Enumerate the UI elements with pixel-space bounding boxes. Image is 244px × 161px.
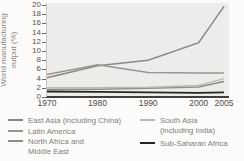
- legend-item-east-asia: East Asia (including China): [8, 116, 121, 126]
- legend-label-east-asia: East Asia (including China): [28, 116, 121, 126]
- y-tick-label: 12: [26, 38, 41, 46]
- x-tick-label: 2005: [209, 99, 239, 108]
- y-axis-title-line2: output (%): [9, 2, 19, 98]
- sub-saharan-africa-line-swatch: [140, 142, 155, 144]
- y-tick-label: 20: [26, 1, 41, 9]
- y-tick-label: 18: [26, 10, 41, 18]
- x-tick-label: 1970: [32, 99, 62, 108]
- y-tick-mark: [42, 60, 46, 61]
- legend-item-sub-saharan-africa: Sub-Saharan Africa: [140, 139, 228, 149]
- y-tick-mark: [42, 51, 46, 52]
- y-axis-title-line1: World manufacturing: [0, 2, 9, 98]
- latin-america-line-swatch: [8, 130, 23, 132]
- legend-label-south-asia: South Asia (including India): [160, 116, 215, 135]
- plot-area: [46, 3, 229, 98]
- y-tick-label: 8: [26, 56, 41, 64]
- y-tick-label: 16: [26, 19, 41, 27]
- legend-item-latin-america: Latin America: [8, 127, 75, 137]
- y-tick-mark: [42, 14, 46, 15]
- y-tick-mark: [42, 88, 46, 89]
- y-tick-mark: [42, 23, 46, 24]
- legend-label-latin-america: Latin America: [28, 127, 75, 137]
- legend-item-south-asia: South Asia (including India): [140, 116, 215, 135]
- south-asia-line-swatch: [140, 119, 155, 121]
- legend-label-north-africa-middle-east: North Africa and Middle East: [28, 137, 84, 156]
- y-tick-label: 14: [26, 29, 41, 37]
- legend-item-north-africa-middle-east: North Africa and Middle East: [8, 137, 84, 156]
- y-tick-mark: [42, 5, 46, 6]
- y-tick-mark: [42, 42, 46, 43]
- north-africa-line-swatch: [8, 140, 23, 142]
- legend-label-sub-saharan-africa: Sub-Saharan Africa: [160, 139, 228, 149]
- manufacturing-output-chart: World manufacturing output (%) 024681012…: [0, 0, 244, 161]
- x-tick-label: 1990: [133, 99, 163, 108]
- y-tick-label: 2: [26, 84, 41, 92]
- y-tick-label: 10: [26, 47, 41, 55]
- y-tick-mark: [42, 69, 46, 70]
- y-tick-mark: [42, 79, 46, 80]
- x-tick-label: 1980: [83, 99, 113, 108]
- y-tick-label: 6: [26, 65, 41, 73]
- y-tick-mark: [42, 33, 46, 34]
- y-tick-label: 4: [26, 75, 41, 83]
- y-axis-title: World manufacturing output (%): [0, 2, 21, 98]
- east-asia-line-swatch: [8, 119, 23, 121]
